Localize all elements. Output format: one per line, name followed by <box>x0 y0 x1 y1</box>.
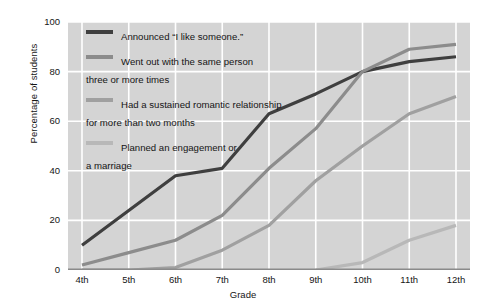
x-tick-label: 12th <box>431 274 481 285</box>
chart-legend: Announced “I like someone.”Went out with… <box>86 26 386 180</box>
series-line-4 <box>316 225 456 270</box>
x-tick-label: 10th <box>338 274 388 285</box>
x-tick-label: 8th <box>244 274 294 285</box>
legend-item: Announced “I like someone.” <box>86 26 386 44</box>
y-axis-title: Percentage of students <box>28 14 39 174</box>
y-tick-label: 80 <box>20 66 60 77</box>
y-tick-label: 100 <box>20 16 60 27</box>
legend-item: Planned an engagement or a marriage <box>86 137 386 173</box>
x-tick-label: 11th <box>384 274 434 285</box>
legend-item-label: Had a sustained romantic relationship fo… <box>86 99 282 128</box>
x-tick-label: 4th <box>57 274 107 285</box>
legend-swatch-icon <box>86 30 113 34</box>
legend-item-label: Planned an engagement or a marriage <box>86 142 237 171</box>
x-tick-label: 5th <box>104 274 154 285</box>
x-tick-label: 9th <box>291 274 341 285</box>
y-tick-label: 40 <box>20 165 60 176</box>
legend-item-label: Went out with the same person three or m… <box>86 56 253 85</box>
legend-swatch-icon <box>86 98 113 102</box>
legend-swatch-icon <box>86 55 113 59</box>
y-tick-label: 20 <box>20 214 60 225</box>
legend-item: Went out with the same person three or m… <box>86 51 386 87</box>
legend-item: Had a sustained romantic relationship fo… <box>86 94 386 130</box>
legend-swatch-icon <box>86 141 113 145</box>
legend-item-label: Announced “I like someone.” <box>121 31 243 42</box>
x-tick-label: 7th <box>197 274 247 285</box>
line-chart: Percentage of students Grade 10080604020… <box>0 0 486 306</box>
y-tick-label: 0 <box>20 264 60 275</box>
y-tick-label: 60 <box>20 115 60 126</box>
x-axis-title: Grade <box>0 289 486 300</box>
x-tick-label: 6th <box>151 274 201 285</box>
